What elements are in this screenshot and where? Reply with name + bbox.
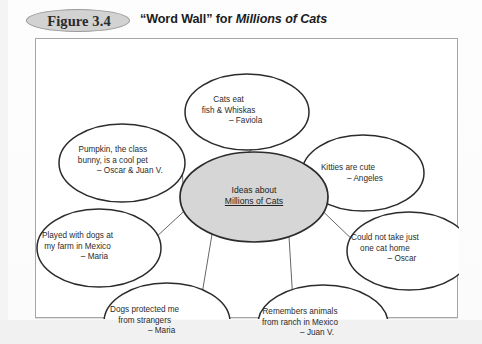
page-edge-margin <box>0 0 8 344</box>
node-ellipses-group <box>37 74 459 319</box>
spoke-to-dogs-protected-me <box>203 234 213 291</box>
figure-caption-row: Figure 3.4 “Word Wall” for Millions of C… <box>0 0 482 38</box>
spoke-to-could-not-take-just-one-cat <box>323 212 351 239</box>
diagram-frame: Cats eatfish & Whiskas– FaviolaPumpkin, … <box>35 38 458 318</box>
spoke-to-remembers-animals-ranch-mexico <box>289 236 292 290</box>
figure-number-label: Figure 3.4 <box>27 10 131 33</box>
node-ellipse-could-not-take-just-one-cat[interactable] <box>347 212 459 290</box>
node-ellipse-dogs-protected-me[interactable] <box>104 283 230 319</box>
figure-number-badge: Figure 3.4 <box>26 9 130 32</box>
center-node-ellipse[interactable] <box>180 152 328 242</box>
caption-book-title: Millions of Cats <box>236 12 327 26</box>
caption-quote-text: “Word Wall” for <box>140 12 236 26</box>
page-bottom-shade <box>0 320 482 344</box>
node-ellipse-played-with-dogs-farm-mexico[interactable] <box>37 209 161 287</box>
node-ellipse-remembers-animals-ranch-mexico[interactable] <box>258 285 388 319</box>
word-wall-diagram <box>36 39 459 319</box>
spoke-to-played-with-dogs-farm-mexico <box>157 211 184 236</box>
figure-caption-text: “Word Wall” for Millions of Cats <box>140 12 327 26</box>
node-ellipse-pumpkin-class-bunny[interactable] <box>59 124 185 202</box>
node-ellipse-cats-eat-fish-whiskas[interactable] <box>185 74 309 150</box>
